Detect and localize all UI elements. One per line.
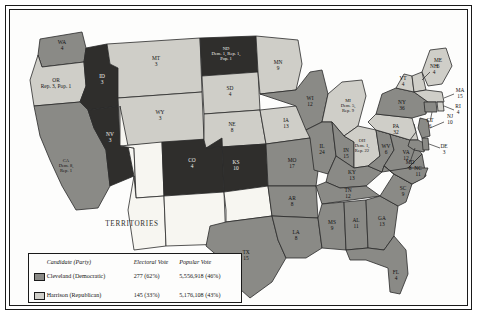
state-MT[interactable] <box>107 38 202 98</box>
legend-swatch-cell <box>34 267 47 286</box>
legend-header-swatch-spacer <box>34 258 47 267</box>
legend-swatch-cell <box>34 305 47 307</box>
legend-electoral-vote: 145 (33%) <box>134 286 180 305</box>
state-label-ks: KS10 <box>233 159 240 171</box>
legend-header-row: Candidate (Party) Electoral Vote Popular… <box>34 258 236 267</box>
leader-line-ma <box>444 94 454 98</box>
state-label-tn: TN12 <box>344 187 351 199</box>
state-label-ia: IA13 <box>283 117 289 129</box>
state-label-al: AL11 <box>352 217 359 229</box>
legend-swatch-democratic <box>34 273 45 281</box>
screenshot-root: WA4ORRep. 3, Pop. 1CADem. 8,Rep. 1NV3ID3… <box>0 0 477 315</box>
state-label-tx: TX15 <box>242 249 249 261</box>
state-label-pa: PA32 <box>393 123 400 135</box>
state-label-ma: MA15 <box>456 87 465 99</box>
legend-header-popular: Popular Vote <box>179 258 236 267</box>
map-plate-outer-border: WA4ORRep. 3, Pop. 1CADem. 8,Rep. 1NV3ID3… <box>5 5 472 310</box>
legend-electoral-vote: 22 (5%) <box>134 305 180 307</box>
state-label-il: IL24 <box>319 143 325 155</box>
legend-popular-vote: 5,556,918 (46%) <box>179 267 236 286</box>
legend-header-candidate: Candidate (Party) <box>47 258 134 267</box>
legend-electoral-vote: 277 (62%) <box>134 267 180 286</box>
legend-popular-vote: 5,176,108 (43%) <box>179 286 236 305</box>
legend-table: Candidate (Party) Electoral Vote Popular… <box>34 258 236 306</box>
leader-line-ri <box>444 106 454 110</box>
state-NE[interactable] <box>204 110 266 148</box>
map-legend: Candidate (Party) Electoral Vote Popular… <box>28 253 242 303</box>
legend-candidate: Weaver (Populist) <box>47 305 134 307</box>
legend-row: Cleveland (Democratic)277 (62%)5,556,918… <box>34 267 236 286</box>
state-CT[interactable] <box>424 102 437 112</box>
territories-label: TERRITORIES <box>105 220 159 228</box>
legend-row: Weaver (Populist)22 (5%)1,041,028 (9%) <box>34 305 236 307</box>
state-label-ct: CT6 <box>427 117 435 129</box>
legend-candidate: Cleveland (Democratic) <box>47 267 134 286</box>
legend-swatch-cell <box>34 286 47 305</box>
state-label-in: IN15 <box>343 147 349 159</box>
legend-swatch-republican <box>34 292 45 300</box>
legend-candidate: Harrison (Republican) <box>47 286 134 305</box>
state-label-wi: WI12 <box>307 95 314 107</box>
state-label-nj: NJ10 <box>447 113 453 125</box>
state-label-de: DE3 <box>440 143 448 155</box>
legend-body: Cleveland (Democratic)277 (62%)5,556,918… <box>34 267 236 307</box>
state-label-ri: RI4 <box>455 103 461 115</box>
leader-line-de <box>429 144 440 148</box>
legend-popular-vote: 1,041,028 (9%) <box>179 305 236 307</box>
legend-header-electoral: Electoral Vote <box>134 258 180 267</box>
legend-row: Harrison (Republican)145 (33%)5,176,108 … <box>34 286 236 305</box>
state-DE[interactable] <box>422 138 429 150</box>
map-plate-inner-border: WA4ORRep. 3, Pop. 1CADem. 8,Rep. 1NV3ID3… <box>9 9 468 306</box>
state-RI[interactable] <box>437 102 444 111</box>
